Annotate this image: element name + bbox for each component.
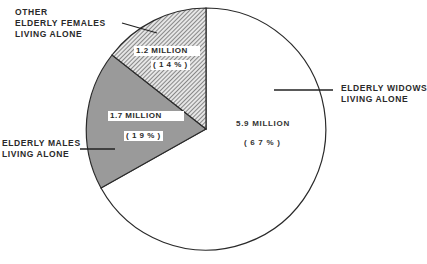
- value-other-females: 1.2 MILLION: [134, 46, 200, 56]
- label-line: ELDERLY MALES: [2, 138, 81, 149]
- label-line: LIVING ALONE: [15, 29, 106, 40]
- percent-widows: ( 6 7 % ): [244, 138, 281, 147]
- label-line: OTHER: [15, 7, 106, 18]
- label-males: ELDERLY MALES LIVING ALONE: [2, 138, 81, 160]
- percent-males: ( 1 9 % ): [124, 131, 163, 141]
- label-line: ELDERLY FEMALES: [15, 18, 106, 29]
- label-line: ELDERLY WIDOWS: [341, 83, 427, 94]
- percent-other-females: ( 1 4 % ): [151, 60, 190, 70]
- value-males: 1.7 MILLION: [108, 111, 184, 121]
- label-other-females: OTHER ELDERLY FEMALES LIVING ALONE: [15, 7, 106, 40]
- label-line: LIVING ALONE: [2, 149, 81, 160]
- value-widows: 5.9 MILLION: [236, 119, 290, 128]
- label-line: LIVING ALONE: [341, 94, 427, 105]
- label-widows: ELDERLY WIDOWS LIVING ALONE: [341, 83, 427, 105]
